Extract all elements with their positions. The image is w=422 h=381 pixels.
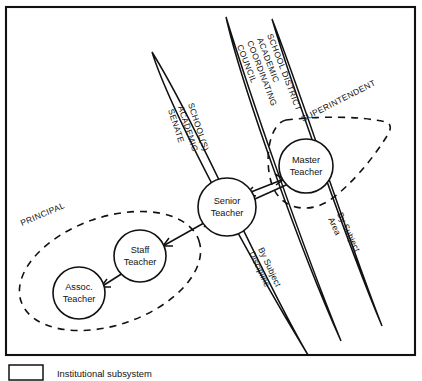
node-assoc-teacher[interactable]: Assoc. Teacher (53, 267, 105, 319)
council-label-group: SCHOOL DISTRICT ACADEMIC COORDINATING CO… (235, 32, 304, 112)
assoc-teacher-circle[interactable] (53, 267, 105, 319)
staff-teacher-label-line1: Staff (131, 245, 150, 255)
principal-label: PRINCIPAL (19, 200, 66, 228)
staff-teacher-label-line2: Teacher (124, 257, 157, 267)
node-senior-teacher[interactable]: Senior Teacher (198, 178, 256, 236)
diagram-page: Assoc. Teacher Staff Teacher Senior Teac… (0, 0, 422, 381)
senior-teacher-circle[interactable] (198, 178, 256, 236)
legend-swatch-institutional-subsystem (9, 365, 43, 380)
senior-teacher-label-line2: Teacher (211, 208, 244, 218)
master-teacher-label-line1: Master (292, 155, 320, 165)
master-teacher-circle[interactable] (279, 139, 333, 193)
node-master-teacher[interactable]: Master Teacher (279, 139, 333, 193)
assoc-teacher-label-line1: Assoc. (65, 282, 93, 292)
by-subject-area-label-group: By Subject Area (326, 211, 362, 254)
by-subject-discipline-label-group: By Subject Discipline (247, 246, 283, 289)
staff-teacher-circle[interactable] (114, 230, 166, 282)
legend: Institutional subsystem (9, 365, 152, 380)
institutional-subsystem-diagram: Assoc. Teacher Staff Teacher Senior Teac… (0, 0, 422, 381)
senate-label-group: SCHOOL(S) ACADEMIC SENATE (166, 102, 211, 153)
node-staff-teacher[interactable]: Staff Teacher (114, 230, 166, 282)
master-teacher-label-line2: Teacher (290, 167, 323, 177)
legend-label-institutional-subsystem: Institutional subsystem (57, 368, 152, 379)
senior-teacher-label-line1: Senior (214, 196, 241, 206)
assoc-teacher-label-line2: Teacher (63, 294, 96, 304)
